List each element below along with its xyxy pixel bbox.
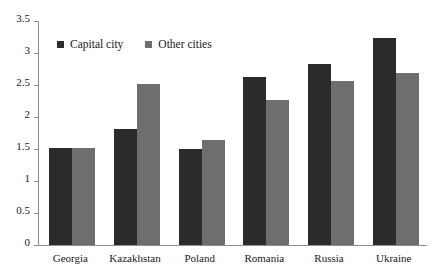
x-axis-line xyxy=(38,245,427,246)
y-axis-tick-label: 0.5 xyxy=(16,205,30,216)
bar-group xyxy=(49,21,95,245)
bar-russia-other-cities xyxy=(331,81,354,245)
legend-entry-capital-city: Capital city xyxy=(57,38,123,50)
bar-chart: 00.511.522.533.5 GeorgiaKazakhstanPoland… xyxy=(0,0,433,277)
y-axis-tick-label: 2.5 xyxy=(16,77,30,88)
y-axis-tick-label: 3.5 xyxy=(16,13,30,24)
y-axis-tick-label: 3 xyxy=(25,45,31,56)
bar-romania-capital-city xyxy=(243,77,266,245)
bar-group xyxy=(373,21,419,245)
legend-swatch-icon xyxy=(145,41,152,48)
legend-label: Capital city xyxy=(70,38,123,50)
x-axis-label-georgia: Georgia xyxy=(38,252,103,265)
y-axis-tick-label: 0 xyxy=(25,237,31,248)
bar-group xyxy=(308,21,354,245)
x-axis-label-romania: Romania xyxy=(232,252,297,265)
bar-poland-other-cities xyxy=(202,140,225,245)
bar-ukraine-other-cities xyxy=(396,73,419,245)
legend-swatch-icon xyxy=(57,41,64,48)
bar-ukraine-capital-city xyxy=(373,38,396,245)
bar-georgia-other-cities xyxy=(72,148,95,245)
bar-group xyxy=(243,21,289,245)
legend-label: Other cities xyxy=(158,38,211,50)
bar-georgia-capital-city xyxy=(49,148,72,245)
x-axis-label-russia: Russia xyxy=(297,252,362,265)
plot-area xyxy=(38,21,426,245)
bar-group xyxy=(179,21,225,245)
bar-group xyxy=(114,21,160,245)
chart-legend: Capital cityOther cities xyxy=(57,38,212,50)
x-axis-label-kazakhstan: Kazakhstan xyxy=(103,252,168,265)
y-axis-tick-label: 1.5 xyxy=(16,141,30,152)
legend-entry-other-cities: Other cities xyxy=(145,38,211,50)
y-axis-tick-label: 1 xyxy=(25,173,31,184)
y-axis-tick-label: 2 xyxy=(25,109,31,120)
x-axis-label-ukraine: Ukraine xyxy=(361,252,426,265)
x-axis-label-poland: Poland xyxy=(167,252,232,265)
y-axis-tick-mark xyxy=(34,245,38,246)
bar-kazakhstan-other-cities xyxy=(137,84,160,245)
bar-poland-capital-city xyxy=(179,149,202,245)
bar-kazakhstan-capital-city xyxy=(114,129,137,245)
bar-russia-capital-city xyxy=(308,64,331,245)
bar-romania-other-cities xyxy=(266,100,289,245)
